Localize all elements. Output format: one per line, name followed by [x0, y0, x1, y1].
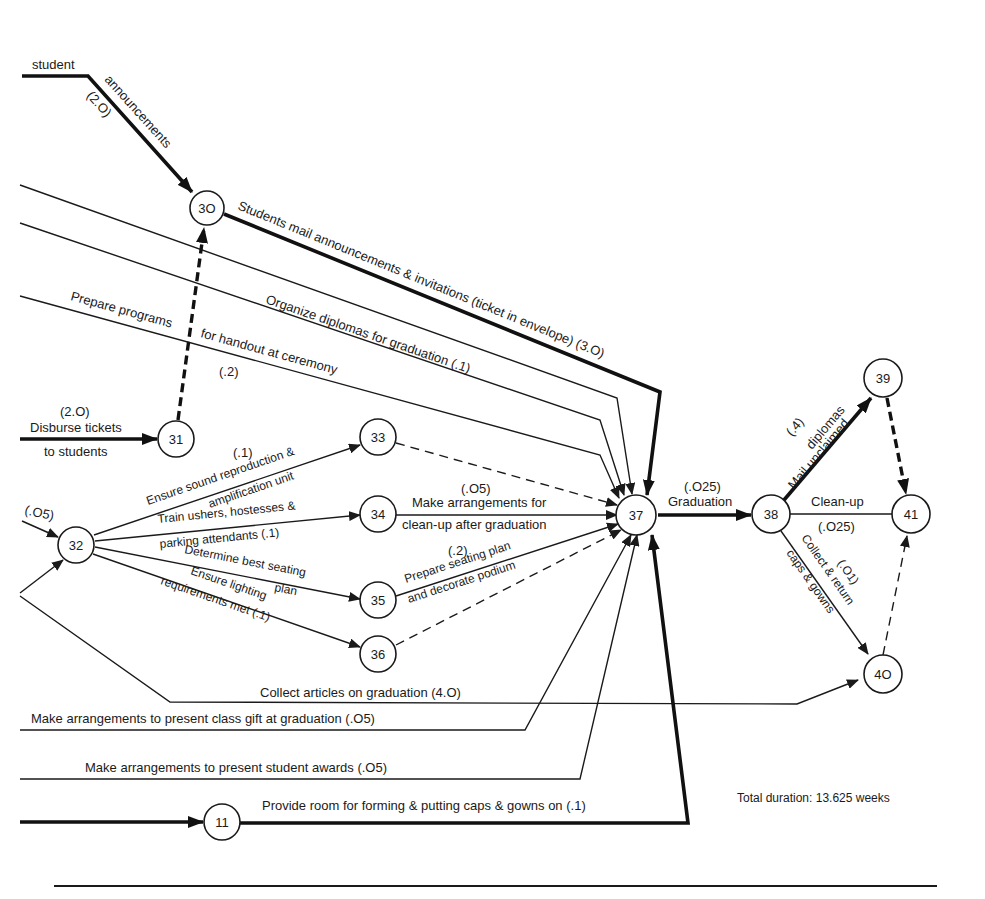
label-class-gift: Make arrangements to present class gift …	[31, 711, 375, 726]
node-33: 33	[360, 419, 396, 455]
svg-text:31: 31	[169, 432, 183, 447]
label-graduation-duration: (.O25)	[684, 479, 721, 494]
label-mail-diplomas-duration: (.4)	[783, 414, 807, 439]
label-announcements-duration: (2.O)	[84, 88, 115, 120]
label-disburse-to-students: to students	[44, 444, 108, 459]
label-graduation: Graduation	[668, 494, 732, 509]
node-32: 32	[58, 527, 94, 563]
label-caps-room: Provide room for forming & putting caps …	[262, 798, 586, 813]
label-cleanup: Clean-up	[811, 494, 864, 509]
node-40: 4O	[864, 655, 902, 693]
label-cleanup-duration: (.O25)	[818, 519, 855, 534]
node-41: 41	[892, 495, 930, 533]
svg-text:35: 35	[371, 593, 385, 608]
svg-text:38: 38	[764, 507, 778, 522]
edge-into-32	[22, 521, 58, 537]
label-cleanup-arrange-duration: (.O5)	[461, 481, 491, 496]
label-cleanup-arrange: Make arrangements for	[412, 495, 547, 510]
svg-text:41: 41	[904, 507, 918, 522]
label-seating-2: plan	[273, 580, 298, 598]
edge-left-into-32	[20, 560, 63, 593]
label-mail-announcements: Students mail announcements & invitation…	[236, 198, 607, 361]
svg-text:4O: 4O	[874, 667, 891, 682]
edge-student-awards	[20, 535, 637, 779]
svg-text:32: 32	[69, 538, 83, 553]
node-34: 34	[360, 496, 396, 532]
label-into-32-duration: (.O5)	[23, 502, 55, 523]
label-student: student	[32, 57, 75, 72]
svg-text:36: 36	[371, 647, 385, 662]
edge-dummy-39-41	[887, 398, 906, 494]
svg-text:37: 37	[629, 508, 643, 523]
svg-text:33: 33	[371, 430, 385, 445]
label-collect-articles: Collect articles on graduation (4.O)	[260, 685, 461, 700]
svg-text:39: 39	[876, 371, 890, 386]
node-38: 38	[752, 495, 790, 533]
node-11: 11	[204, 804, 240, 840]
edge-dummy-40-41	[883, 536, 907, 655]
label-disburse-tickets: Disburse tickets	[30, 420, 122, 435]
edge-class-gift	[20, 535, 631, 730]
label-disburse-duration: (2.O)	[60, 404, 90, 419]
label-prepare-programs-duration: (.2)	[219, 364, 239, 379]
node-35: 35	[360, 582, 396, 618]
node-30: 3O	[190, 191, 224, 225]
total-duration: Total duration: 13.625 weeks	[737, 791, 890, 805]
svg-text:34: 34	[371, 507, 385, 522]
node-37: 37	[616, 495, 656, 535]
node-36: 36	[360, 636, 396, 672]
node-31: 31	[158, 421, 194, 457]
node-39: 39	[864, 359, 902, 397]
label-student-awards: Make arrangements to present student awa…	[85, 760, 387, 775]
label-cleanup-arrange-2: clean-up after graduation	[402, 517, 547, 532]
svg-text:3O: 3O	[198, 201, 215, 216]
edge-dummy-31-30	[178, 228, 204, 420]
pert-network-diagram: 3O 31 32 33 34 35 36 37 38 39 4O 41 11 s…	[0, 0, 985, 899]
svg-text:11: 11	[215, 815, 229, 830]
